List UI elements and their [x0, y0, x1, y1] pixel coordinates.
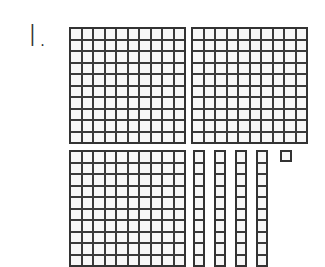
- ten-rod-1: [193, 150, 205, 267]
- block-cell: [163, 133, 173, 143]
- block-cell: [163, 187, 173, 197]
- block-cell: [106, 152, 116, 162]
- block-cell: [129, 233, 139, 243]
- block-cell: [129, 52, 139, 62]
- block-cell: [129, 64, 139, 74]
- block-cell: [297, 75, 307, 85]
- block-cell: [71, 198, 81, 208]
- block-cell: [83, 244, 93, 254]
- block-cell: [117, 187, 127, 197]
- block-cell: [195, 233, 203, 243]
- block-cell: [251, 110, 261, 120]
- block-cell: [71, 164, 81, 174]
- block-cell: [205, 98, 215, 108]
- block-cell: [129, 210, 139, 220]
- block-cell: [71, 75, 81, 85]
- ten-rod-2: [214, 150, 226, 267]
- block-cell: [228, 133, 238, 143]
- ten-rod-3: [235, 150, 247, 267]
- unit-cube: [280, 150, 292, 162]
- block-cell: [163, 256, 173, 266]
- block-cell: [258, 187, 266, 197]
- block-cell: [129, 110, 139, 120]
- block-cell: [195, 244, 203, 254]
- block-cell: [274, 98, 284, 108]
- block-cell: [129, 244, 139, 254]
- block-cell: [83, 87, 93, 97]
- block-cell: [216, 256, 224, 266]
- block-cell: [216, 41, 226, 51]
- block-cell: [71, 175, 81, 185]
- block-cell: [216, 152, 224, 162]
- block-cell: [140, 198, 150, 208]
- block-cell: [175, 52, 185, 62]
- block-cell: [195, 198, 203, 208]
- block-cell: [216, 133, 226, 143]
- block-cell: [175, 64, 185, 74]
- block-cell: [94, 98, 104, 108]
- block-cell: [251, 75, 261, 85]
- block-cell: [129, 87, 139, 97]
- block-cell: [140, 221, 150, 231]
- block-cell: [262, 133, 272, 143]
- block-cell: [193, 98, 203, 108]
- block-cell: [175, 98, 185, 108]
- block-cell: [106, 52, 116, 62]
- block-cell: [216, 221, 224, 231]
- block-cell: [195, 152, 203, 162]
- block-cell: [152, 52, 162, 62]
- block-cell: [71, 152, 81, 162]
- block-cell: [94, 29, 104, 39]
- block-cell: [237, 175, 245, 185]
- block-cell: [129, 198, 139, 208]
- block-cell: [140, 98, 150, 108]
- block-cell: [117, 133, 127, 143]
- block-cell: [258, 198, 266, 208]
- block-cell: [285, 41, 295, 51]
- block-cell: [71, 110, 81, 120]
- block-cell: [258, 256, 266, 266]
- block-cell: [106, 164, 116, 174]
- block-cell: [285, 121, 295, 131]
- block-cell: [106, 64, 116, 74]
- block-cell: [237, 152, 245, 162]
- block-cell: [175, 29, 185, 39]
- block-cell: [152, 29, 162, 39]
- block-cell: [239, 41, 249, 51]
- block-cell: [140, 87, 150, 97]
- block-cell: [140, 41, 150, 51]
- block-cell: [216, 244, 224, 254]
- block-cell: [83, 75, 93, 85]
- block-cell: [239, 87, 249, 97]
- hundred-flat-2: [191, 27, 308, 144]
- block-cell: [216, 198, 224, 208]
- block-cell: [83, 233, 93, 243]
- block-cell: [94, 210, 104, 220]
- block-cell: [175, 41, 185, 51]
- block-cell: [83, 256, 93, 266]
- block-cell: [71, 187, 81, 197]
- block-cell: [251, 121, 261, 131]
- block-cell: [258, 152, 266, 162]
- block-cell: [71, 210, 81, 220]
- block-cell: [175, 110, 185, 120]
- block-cell: [205, 29, 215, 39]
- block-cell: [251, 133, 261, 143]
- block-cell: [216, 29, 226, 39]
- block-cell: [237, 244, 245, 254]
- block-cell: [258, 175, 266, 185]
- block-cell: [239, 52, 249, 62]
- block-cell: [228, 98, 238, 108]
- block-cell: [152, 110, 162, 120]
- block-cell: [262, 41, 272, 51]
- block-cell: [71, 29, 81, 39]
- block-cell: [228, 52, 238, 62]
- block-cell: [117, 75, 127, 85]
- block-cell: [71, 52, 81, 62]
- block-cell: [216, 121, 226, 131]
- block-cell: [129, 187, 139, 197]
- block-cell: [193, 75, 203, 85]
- block-cell: [175, 244, 185, 254]
- block-cell: [83, 221, 93, 231]
- block-cell: [274, 41, 284, 51]
